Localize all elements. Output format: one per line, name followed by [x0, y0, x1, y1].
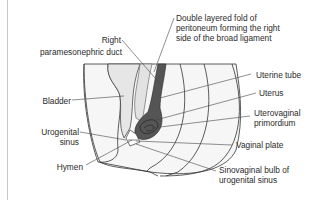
label-vaginal-plate: Vaginal plate — [236, 140, 283, 150]
label-sinovaginal-bulb: Sinovaginal bulb of urogenital sinus — [219, 165, 289, 185]
label-uterus: Uterus — [259, 88, 283, 98]
label-uterovaginal-primordium: Uterovaginal primordium — [254, 108, 301, 128]
label-right-duct-line1: Right — [91, 35, 121, 45]
label-uterine-tube: Uterine tube — [256, 70, 301, 80]
label-broad-ligament: Double layered fold of peritoneum formin… — [176, 13, 280, 43]
label-bladder: Bladder — [30, 96, 71, 106]
label-hymen: Hymen — [46, 162, 83, 172]
label-right-duct-line2: paramesonephric duct — [28, 47, 122, 57]
label-urogenital-sinus: Urogenital sinus — [26, 127, 79, 147]
